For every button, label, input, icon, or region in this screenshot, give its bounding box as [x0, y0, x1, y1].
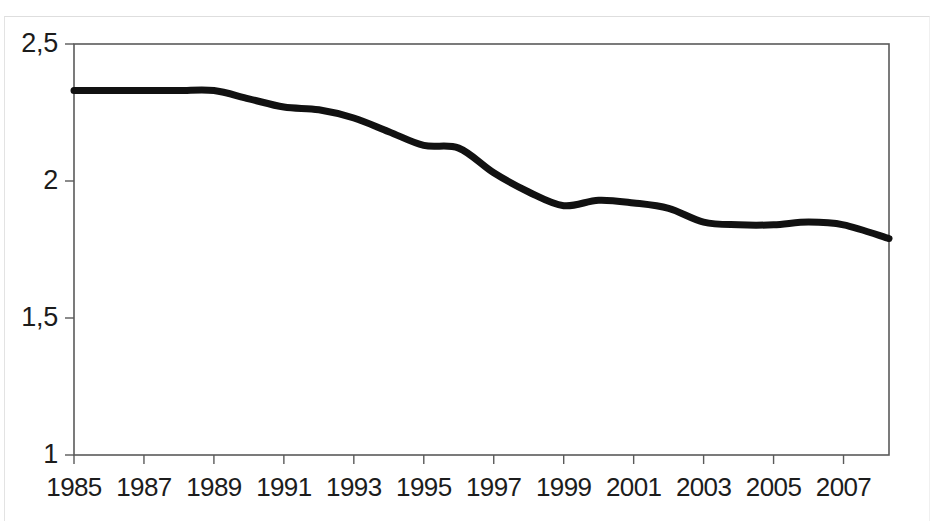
line-chart: 11,522,5 1985198719891991199319951997199… — [0, 0, 935, 526]
x-axis-tick-label: 1985 — [34, 474, 114, 500]
y-axis-tick-label: 2 — [43, 167, 58, 194]
y-axis-tick-label: 1 — [43, 441, 58, 468]
y-axis-tick-label: 2,5 — [21, 30, 58, 57]
chart-page: 11,522,5 1985198719891991199319951997199… — [0, 0, 935, 526]
x-axis-tick-label: 1995 — [384, 474, 464, 500]
y-axis-ticks — [65, 44, 74, 455]
x-axis-tick-label: 1991 — [244, 474, 324, 500]
x-axis-tick-label: 1989 — [174, 474, 254, 500]
plot-frame — [74, 44, 889, 455]
x-axis-tick-label: 2003 — [664, 474, 744, 500]
x-axis-tick-label: 1999 — [524, 474, 604, 500]
y-axis-tick-label: 1,5 — [21, 304, 58, 331]
x-axis-tick-label: 2001 — [594, 474, 674, 500]
x-axis-tick-label: 2007 — [804, 474, 884, 500]
plot-svg — [0, 0, 935, 526]
x-axis-ticks — [74, 455, 844, 464]
x-axis-tick-label: 1987 — [104, 474, 184, 500]
x-axis-tick-label: 2005 — [734, 474, 814, 500]
x-axis-tick-label: 1997 — [454, 474, 534, 500]
x-axis-tick-label: 1993 — [314, 474, 394, 500]
